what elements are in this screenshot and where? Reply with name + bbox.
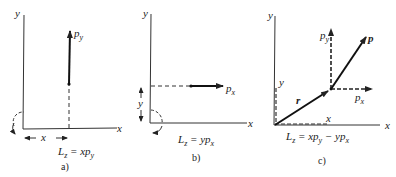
position-vector-r xyxy=(275,91,328,125)
momentum-vector-py xyxy=(69,31,70,84)
y-axis-label: y xyxy=(14,7,20,19)
formula-b: Lz = ypx xyxy=(177,133,215,148)
caption-a: a) xyxy=(61,161,69,173)
y-axis xyxy=(274,16,275,125)
py-label: py xyxy=(319,29,330,44)
distance-x-label: x xyxy=(40,131,46,143)
p-label: p xyxy=(367,32,374,44)
px-label: px xyxy=(225,82,236,97)
y-axis-label: y xyxy=(142,7,148,19)
x-axis xyxy=(23,128,117,129)
r-label: r xyxy=(296,94,301,106)
distance-y-label: y xyxy=(137,97,143,109)
formula-a: Lz = xpy xyxy=(57,145,95,160)
y-axis-label: y xyxy=(267,9,273,21)
rotation-arc xyxy=(151,110,162,124)
panel-b: y x px y Lz = ypx b) xyxy=(137,7,253,164)
py-label: py xyxy=(73,27,84,42)
panel-c: y x y x r p py px Lz = xpy − ypx c) xyxy=(267,9,390,167)
formula-c: Lz = xpy − ypx xyxy=(285,130,349,145)
momentum-vector-p xyxy=(331,37,366,89)
x-axis-label: x xyxy=(116,122,122,134)
x-axis-label: x xyxy=(247,117,253,129)
caption-c: c) xyxy=(318,155,326,167)
x-axis-label: x xyxy=(384,119,390,131)
px-label: px xyxy=(354,91,365,106)
y-axis xyxy=(150,14,151,123)
particle-point xyxy=(330,88,333,91)
rotation-arc xyxy=(13,112,24,126)
angular-momentum-diagram: y x py x Lz = xpy a) y x px y Lz = ypx b… xyxy=(0,0,396,177)
coord-y-label: y xyxy=(278,76,284,88)
caption-b: b) xyxy=(192,152,200,164)
rotation-arrow xyxy=(153,126,162,133)
coord-x-label: x xyxy=(325,112,331,124)
particle-point xyxy=(67,82,70,85)
panel-a: y x py x Lz = xpy a) xyxy=(13,7,122,173)
particle-point xyxy=(189,84,192,87)
